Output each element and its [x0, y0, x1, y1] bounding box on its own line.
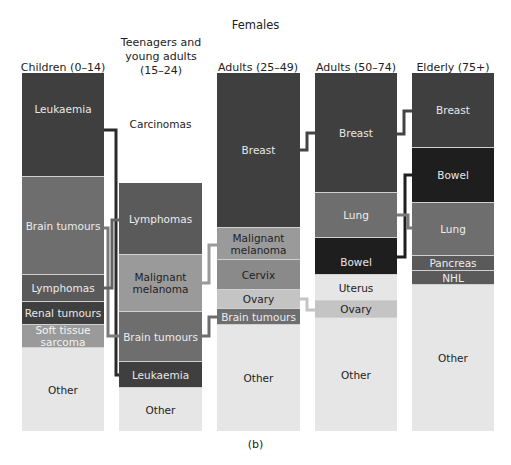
figure-caption: (b): [0, 438, 511, 451]
connector-malignant-melanoma: [202, 245, 217, 283]
connector-breast-2: [397, 111, 412, 134]
rank-connectors: [0, 0, 511, 465]
connector-brain-tumours-2: [202, 317, 217, 336]
connector-breast: [300, 133, 315, 150]
connector-ovary: [300, 299, 315, 310]
